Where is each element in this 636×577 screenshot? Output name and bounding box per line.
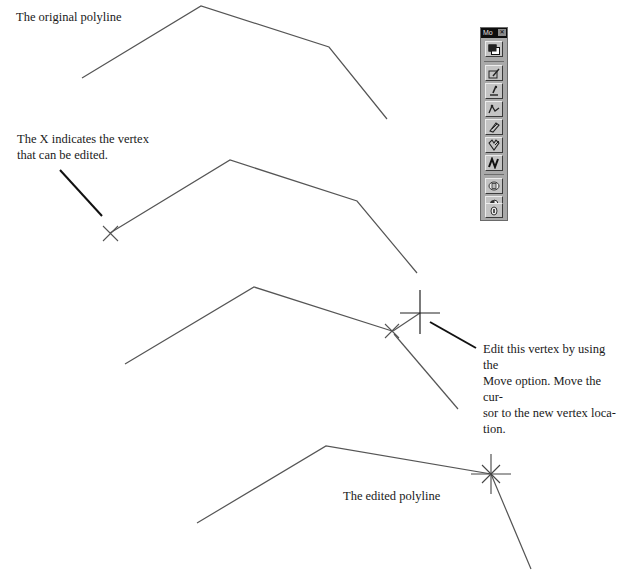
break-icon bbox=[488, 139, 500, 151]
moving-polyline bbox=[125, 287, 392, 364]
vertex-x-marker-icon bbox=[385, 324, 399, 338]
editing-polyline bbox=[110, 160, 417, 273]
explode-button[interactable] bbox=[485, 119, 503, 135]
x-marker-caption: The X indicates the vertex that can be e… bbox=[17, 131, 157, 163]
crosshair-cursor-icon bbox=[400, 290, 440, 334]
stretch-icon bbox=[488, 206, 500, 216]
caption-line: Move option. Move the cur- bbox=[483, 373, 619, 405]
stretch-button[interactable] bbox=[485, 203, 503, 218]
polyline-diagram bbox=[0, 0, 636, 577]
modify-properties-icon bbox=[488, 44, 500, 55]
caption-line: sor to the new vertex loca- bbox=[483, 405, 619, 421]
caption-line: that can be edited. bbox=[17, 147, 157, 163]
edited-polyline-label: The edited polyline bbox=[343, 488, 440, 504]
edit-spline-button[interactable] bbox=[485, 155, 503, 171]
caption-line: tion. bbox=[483, 421, 619, 437]
vertex-x-marker-icon bbox=[103, 226, 118, 241]
original-polyline bbox=[82, 6, 387, 119]
toolbar-separator bbox=[484, 61, 504, 62]
edit-spline-icon bbox=[488, 157, 500, 169]
edit-polyline-icon bbox=[488, 103, 500, 115]
edit-entity-icon bbox=[488, 68, 500, 79]
edit-entity-button[interactable] bbox=[485, 65, 503, 81]
explode-icon bbox=[488, 121, 500, 133]
toolbar-separator bbox=[484, 174, 504, 175]
toolbar-close-button[interactable]: ✕ bbox=[498, 29, 506, 36]
toolbar-title: Mo bbox=[483, 29, 493, 36]
callout-line-x bbox=[60, 170, 102, 216]
modify-properties-button[interactable] bbox=[485, 41, 503, 57]
edit-vertex-caption: Edit this vertex by using the Move optio… bbox=[483, 341, 619, 437]
break-button[interactable] bbox=[485, 137, 503, 153]
original-polyline-label: The original polyline bbox=[16, 9, 122, 25]
extend-button[interactable] bbox=[485, 178, 503, 194]
edit-text-button[interactable] bbox=[485, 83, 503, 99]
edit-text-icon bbox=[488, 85, 500, 97]
modify-toolbar[interactable]: Mo ✕ bbox=[480, 27, 508, 221]
callout-line-edit bbox=[430, 322, 476, 348]
extend-icon bbox=[488, 181, 500, 191]
toolbar-title-bar[interactable]: Mo ✕ bbox=[481, 28, 507, 38]
edit-polyline-button[interactable] bbox=[485, 101, 503, 117]
edited-polyline bbox=[197, 446, 531, 569]
moving-polyline-tail bbox=[394, 334, 458, 409]
vertex-star-marker-icon bbox=[471, 454, 511, 494]
rubber-band-line bbox=[393, 313, 420, 331]
caption-line: The X indicates the vertex bbox=[17, 131, 157, 147]
caption-line: Edit this vertex by using the bbox=[483, 341, 619, 373]
